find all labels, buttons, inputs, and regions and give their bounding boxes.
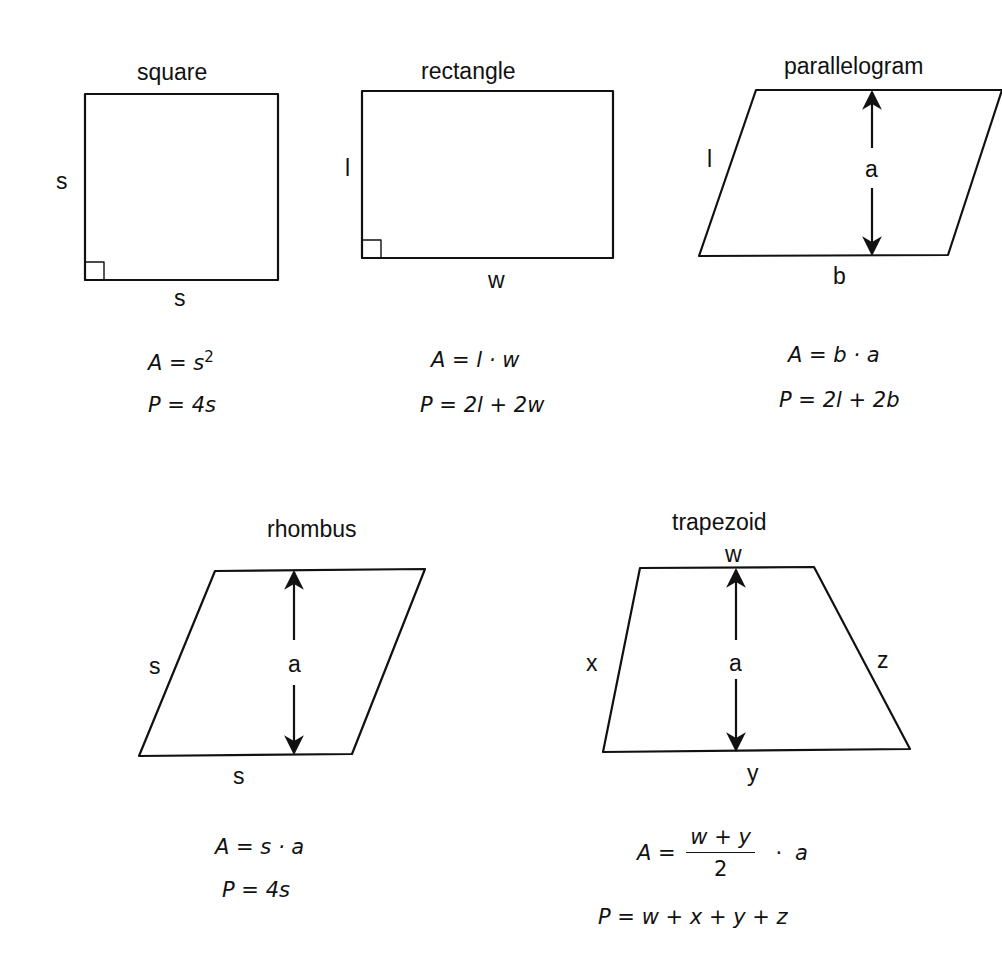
trapezoid-perimeter-formula: P = w + x + y + z [598, 907, 788, 928]
parallelogram-side-left-label: l [707, 148, 712, 171]
trapezoid-height-label: a [729, 652, 742, 675]
rectangle-area-formula: A = l · w [431, 350, 519, 371]
trapezoid-shape [603, 567, 910, 752]
parallelogram-shape [699, 90, 1002, 256]
parallelogram-perimeter-formula: P = 2l + 2b [779, 390, 900, 411]
trapezoid-side-right-label: z [877, 649, 889, 672]
rhombus-height-label: a [288, 653, 301, 676]
parallelogram-height-label: a [865, 158, 878, 181]
rhombus-side-bottom-label: s [233, 765, 245, 788]
area-symbol: A [148, 351, 162, 375]
rhombus-title: rhombus [267, 518, 356, 541]
trapezoid-side-top-label: w [725, 543, 742, 566]
square-perimeter-formula: P = 4s [148, 395, 216, 416]
rectangle-right-angle-marker [362, 240, 381, 258]
trapezoid-side-left-label: x [586, 652, 598, 675]
trapezoid-area-formula: A = w + y 2 · a [637, 827, 808, 880]
trapezoid-title: trapezoid [672, 511, 767, 534]
rhombus-side-left-label: s [149, 655, 161, 678]
rhombus-area-formula: A = s · a [215, 837, 304, 858]
rectangle-side-bottom-label: w [488, 269, 505, 292]
rhombus-perimeter-formula: P = 4s [222, 880, 290, 901]
rectangle-title: rectangle [421, 60, 516, 83]
square-side-bottom-label: s [174, 287, 186, 310]
parallelogram-title: parallelogram [784, 55, 923, 78]
square-side-left-label: s [56, 170, 68, 193]
square-shape [85, 94, 278, 280]
rectangle-shape [362, 91, 613, 258]
rectangle-side-left-label: l [345, 157, 350, 180]
square-right-angle-marker [85, 262, 104, 280]
square-title: square [137, 61, 207, 84]
parallelogram-side-bottom-label: b [833, 265, 846, 288]
rectangle-perimeter-formula: P = 2l + 2w [420, 395, 544, 416]
rhombus-shape [139, 569, 425, 756]
parallelogram-area-formula: A = b · a [788, 345, 880, 366]
trapezoid-area-fraction: w + y 2 [686, 827, 755, 880]
square-area-formula: A = s2 [148, 350, 214, 374]
trapezoid-side-bottom-label: y [747, 762, 759, 785]
shapes-canvas [0, 0, 1002, 963]
